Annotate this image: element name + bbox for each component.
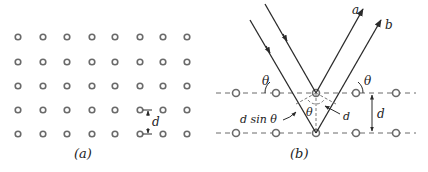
lattice-row-2: [15, 59, 190, 65]
ray-a-label: a: [352, 3, 359, 17]
lattice-row-1: [15, 34, 190, 40]
construction-lines: [296, 93, 336, 133]
lattice-row-3: [15, 83, 190, 89]
path-difference-pointer: [283, 112, 296, 120]
bragg-diagram: d (a) a b θ θ θ d sin θ: [0, 0, 428, 172]
theta-right-label: θ: [364, 74, 372, 88]
lattice-row-5: [15, 131, 190, 137]
ray-b-label: b: [385, 18, 393, 32]
panel-a-d-label: d: [152, 115, 160, 129]
theta-left-label: θ: [262, 74, 270, 88]
panel-a-lattice: [15, 34, 190, 137]
lattice-row-4: [15, 107, 190, 113]
path-difference-label: d sin θ: [240, 113, 277, 126]
theta-apex-label: θ: [306, 106, 313, 119]
panel-a-caption: (a): [74, 146, 92, 161]
panel-b-d-label: d: [377, 107, 385, 121]
panel-b-caption: (b): [290, 146, 308, 161]
inner-d-label: d: [343, 110, 350, 123]
panel-a-spacing-marker: [143, 110, 152, 134]
